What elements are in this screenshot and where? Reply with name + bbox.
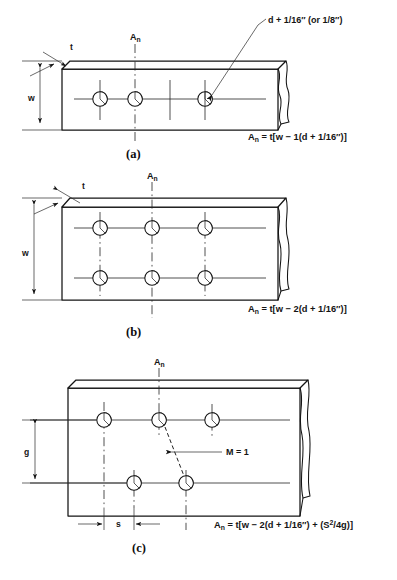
- panel-b: An t w An = t[w − 2(d + 1/16″)] (b): [21, 171, 347, 339]
- figure-container: An t w d + 1/16″ (or 1/8″) An = t[w − 1(…: [0, 0, 397, 580]
- bolt-hole: [179, 476, 193, 490]
- plate-break-edge-back-b: [281, 198, 289, 291]
- bolt-hole: [145, 221, 159, 235]
- plate-break-edge-back-a: [281, 61, 289, 124]
- bolt-hole: [205, 413, 219, 427]
- bolt-hole: [93, 271, 107, 285]
- bolt-hole: [93, 221, 107, 235]
- width-label-b: w: [21, 248, 29, 258]
- panel-label-a: (a): [126, 147, 141, 161]
- bolt-hole: [93, 92, 107, 106]
- hole-size-callout-a: d + 1/16″ (or 1/8″): [268, 15, 342, 25]
- plate-top-edge-b: [62, 198, 286, 207]
- width-label-a: w: [27, 93, 35, 103]
- formula-c: An = t[w − 2(d + 1/16″) + (S2/4g)]: [214, 519, 353, 531]
- bolt-hole: [198, 221, 212, 235]
- plate-top-edge-a: [62, 61, 286, 69]
- hole-size-leader-tail-a: [258, 19, 266, 25]
- bolt-hole: [145, 271, 159, 285]
- formula-a: An = t[w − 1(d + 1/16″)]: [248, 132, 347, 143]
- panel-c: An M = 1 g s An = t[w − 2(d + 1/16″) + (…: [22, 357, 353, 555]
- panel-label-c: (c): [132, 541, 146, 555]
- plate-face-b: [62, 207, 278, 300]
- pitch-label-c: s: [116, 519, 121, 529]
- section-label-a: An: [130, 32, 141, 43]
- bolt-hole: [97, 413, 111, 427]
- formula-b: An = t[w − 2(d + 1/16″)]: [248, 304, 347, 315]
- stagger-count-label-c: M = 1: [226, 447, 249, 457]
- thickness-label-a: t: [70, 42, 73, 52]
- thickness-arrow-a: [30, 64, 54, 76]
- thickness-arrow-b: [34, 203, 58, 214]
- thickness-label-b: t: [82, 181, 85, 191]
- bolt-hole: [128, 92, 142, 106]
- net-area-figure: An t w d + 1/16″ (or 1/8″) An = t[w − 1(…: [0, 0, 397, 580]
- panel-a: An t w d + 1/16″ (or 1/8″) An = t[w − 1(…: [22, 15, 347, 161]
- section-label-c: An: [154, 357, 165, 368]
- section-label-b: An: [147, 171, 158, 182]
- gage-label-c: g: [24, 447, 29, 457]
- bolt-hole: [198, 271, 212, 285]
- plate-break-edge-back-c: [303, 380, 310, 498]
- plate-top-edge-c: [68, 380, 308, 388]
- panel-label-b: (b): [126, 325, 141, 339]
- thickness-leader-a: [43, 52, 66, 66]
- bolt-hole: [127, 476, 141, 490]
- bolt-hole: [152, 413, 166, 427]
